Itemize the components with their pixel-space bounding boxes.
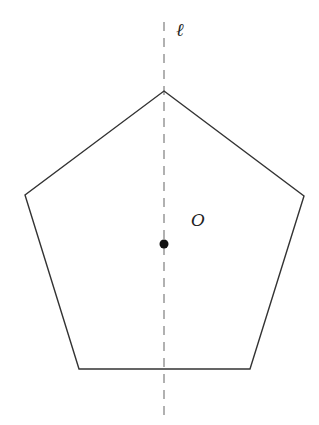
center-label: O bbox=[191, 210, 205, 230]
line-label: ℓ bbox=[176, 19, 184, 40]
pentagon-diagram: ℓ O bbox=[0, 0, 319, 425]
center-point bbox=[160, 240, 169, 249]
